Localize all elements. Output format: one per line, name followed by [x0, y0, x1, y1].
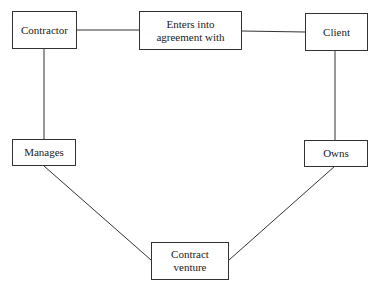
node-label-line2: venture [174, 261, 207, 274]
node-label: Manages [24, 146, 64, 159]
node-label: Contractor [21, 24, 68, 37]
node-label-line1: Contract [171, 248, 209, 261]
node-label-line2: agreement with [156, 31, 224, 44]
node-label: Owns [323, 147, 349, 160]
node-label-line1: Enters into [167, 18, 215, 31]
node-client: Client [305, 13, 368, 51]
node-manages: Manages [12, 139, 76, 166]
node-contract-venture: Contract venture [151, 242, 229, 280]
node-owns: Owns [304, 140, 368, 167]
node-contractor: Contractor [12, 11, 77, 49]
node-label: Client [323, 26, 350, 39]
node-agreement: Enters into agreement with [139, 11, 242, 50]
